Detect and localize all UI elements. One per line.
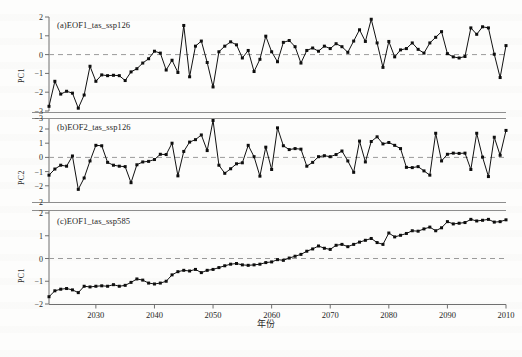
data-point [171, 273, 174, 276]
data-point [364, 160, 367, 163]
data-point [299, 62, 302, 65]
svg-text:0: 0 [39, 51, 43, 60]
data-point [323, 247, 326, 250]
data-point [493, 53, 496, 56]
svg-text:1: 1 [39, 32, 43, 41]
data-point [346, 51, 349, 54]
data-point [71, 92, 74, 95]
data-point [258, 263, 261, 266]
data-point [77, 291, 80, 294]
data-point [100, 73, 103, 76]
panel-b-ylabel: PC2 [17, 170, 26, 185]
data-point [276, 126, 279, 129]
data-point [153, 282, 156, 285]
data-point [264, 35, 267, 38]
data-point [340, 243, 343, 246]
data-point [65, 287, 68, 290]
data-point [171, 142, 174, 145]
data-point [393, 235, 396, 238]
data-point [458, 152, 461, 155]
data-point [200, 133, 203, 136]
data-point [393, 55, 396, 58]
data-point [294, 147, 297, 150]
data-point [452, 222, 455, 225]
data-point [487, 175, 490, 178]
data-point [182, 24, 185, 27]
data-point [176, 174, 179, 177]
data-point [229, 40, 232, 43]
data-point [159, 153, 162, 156]
svg-text:2: 2 [39, 13, 43, 22]
svg-text:1: 1 [39, 139, 43, 148]
data-point [352, 243, 355, 246]
x-tick-label: 2080 [380, 310, 397, 320]
panel-b: PC2 (b)EOF2_tas_ssp126 2 1 0 −1 −2 −3 2 [0, 113, 522, 209]
data-point [48, 295, 51, 298]
data-point [135, 163, 138, 166]
figure-root: PC1 (a)EOF1_tas_ssp126 2 1 0 −1 −2 −3 [0, 0, 522, 357]
data-point [188, 75, 191, 78]
x-axis-label: 年份 [257, 317, 275, 330]
data-point [89, 285, 92, 288]
data-point [48, 105, 51, 108]
data-point [428, 41, 431, 44]
data-point [446, 220, 449, 223]
data-point [335, 42, 338, 45]
data-point [387, 40, 390, 43]
x-axis-ticks [96, 305, 506, 309]
data-point [329, 155, 332, 158]
data-point [270, 260, 273, 263]
data-point [212, 85, 215, 88]
data-point [370, 18, 373, 21]
data-point [499, 76, 502, 79]
data-point [446, 153, 449, 156]
data-point [399, 234, 402, 237]
data-point [235, 262, 238, 265]
data-point [200, 40, 203, 43]
data-point [135, 67, 138, 70]
data-point [352, 171, 355, 174]
data-point [59, 93, 62, 96]
data-point [458, 222, 461, 225]
data-point [276, 60, 279, 63]
data-point [493, 221, 496, 224]
data-point [200, 271, 203, 274]
data-point [311, 247, 314, 250]
data-point [141, 62, 144, 65]
data-point [194, 45, 197, 48]
data-point [118, 285, 121, 288]
panel-a-title: (a)EOF1_tas_ssp126 [57, 20, 130, 30]
data-point [264, 261, 267, 264]
x-axis-tick-labels: 20302040205020602070208020902010 [87, 310, 514, 320]
data-point [463, 221, 466, 224]
data-point [381, 243, 384, 246]
data-point [83, 94, 86, 97]
data-point [53, 80, 56, 83]
svg-text:−3: −3 [34, 114, 43, 123]
data-point [194, 268, 197, 271]
data-point [83, 285, 86, 288]
data-point [223, 264, 226, 267]
data-point [411, 166, 414, 169]
data-point [487, 26, 490, 29]
data-point [311, 161, 314, 164]
data-point [258, 58, 261, 61]
data-point [247, 144, 250, 147]
data-point [305, 49, 308, 52]
data-point [475, 33, 478, 36]
svg-text:−2: −2 [34, 300, 43, 309]
data-point [376, 241, 379, 244]
data-point [147, 160, 150, 163]
data-point [165, 153, 168, 156]
data-point [165, 280, 168, 283]
data-point [118, 74, 121, 77]
data-point [399, 147, 402, 150]
panel-a: PC1 (a)EOF1_tas_ssp126 2 1 0 −1 −2 −3 [0, 8, 522, 120]
data-point [141, 160, 144, 163]
data-point [499, 154, 502, 157]
data-point [241, 56, 244, 59]
data-point [223, 172, 226, 175]
data-point [65, 90, 68, 93]
data-point [434, 132, 437, 135]
panel-a-series [48, 18, 508, 110]
